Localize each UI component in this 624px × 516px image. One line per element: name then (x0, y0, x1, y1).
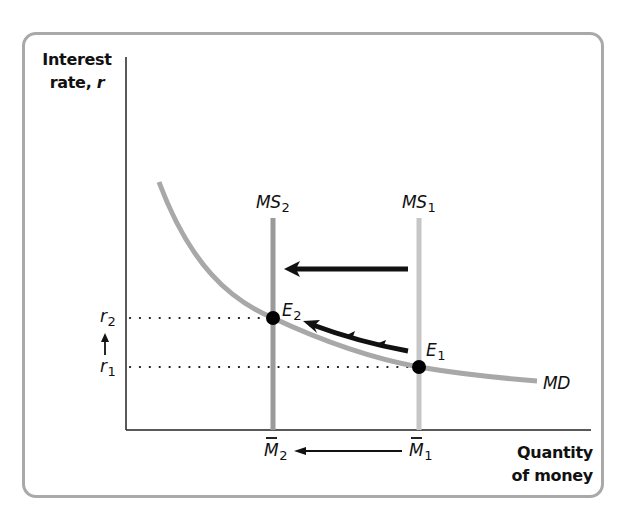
md-label: MD (543, 373, 570, 393)
e2-label: E2 (282, 300, 301, 323)
y-axis-title: Interest rate, r (38, 48, 116, 94)
ms2-label: MS2 (256, 192, 289, 215)
x-axis-title: Quantity of money (500, 441, 593, 487)
e1-point (412, 360, 426, 374)
e1-label: E1 (426, 340, 445, 363)
r2-tick-label: r2 (100, 306, 115, 329)
r-up-arrowhead (101, 333, 109, 342)
ms1-label: MS1 (402, 192, 435, 215)
m1-tick-label: M1 (409, 440, 432, 463)
e2-point (266, 311, 280, 325)
r1-tick-label: r1 (100, 356, 115, 379)
y-axis-title-line2: rate, r (38, 71, 116, 94)
x-axis-title-line2: of money (500, 464, 593, 487)
m-shift-arrowhead (294, 447, 306, 455)
md-curve (159, 182, 537, 381)
x-axis-title-line1: Quantity (500, 441, 593, 464)
y-axis-title-line1: Interest (38, 48, 116, 71)
m2-tick-label: M2 (264, 440, 287, 463)
